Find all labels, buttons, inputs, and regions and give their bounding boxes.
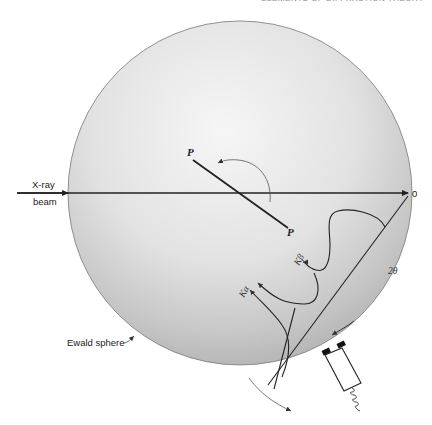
xray-label: X-ray [32,179,55,190]
plane-label-top: P [187,146,194,158]
beam-label: beam [33,196,57,207]
two-theta-label: 2θ [388,266,398,276]
detector [322,340,361,411]
ewald-sphere-diagram: X-ray beam 0 P P Kβ Kα 2θ Ewald sphere [0,0,432,425]
plane-label-bottom: P [287,226,294,238]
ewald-sphere-label: Ewald sphere [67,337,125,348]
origin-label: 0 [412,188,417,199]
ewald-leader [123,336,134,343]
detector-cable-icon [351,388,360,411]
